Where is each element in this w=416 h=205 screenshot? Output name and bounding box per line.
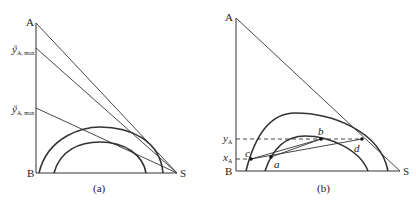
label-yA-max-upper: yoA, max [12, 43, 35, 56]
panel-b-figure [236, 18, 400, 171]
diagram-canvas [0, 0, 416, 205]
point-label-d: d [354, 143, 360, 154]
point-label-b: b [318, 126, 324, 137]
vertex-label-B: B [27, 168, 34, 179]
vertex-label-S: S [403, 166, 409, 177]
caption-a: (a) [93, 182, 105, 194]
vertex-label-A: A [225, 12, 233, 23]
binodal-curve-inner [54, 142, 146, 173]
binodal-curve-outer [246, 113, 388, 171]
label-yA: yA [223, 133, 232, 145]
label-xA: xA [223, 152, 232, 164]
point-b [319, 137, 323, 141]
vertex-label-B: B [225, 166, 232, 177]
caption-b: (b) [317, 182, 330, 194]
label-yA-max-lower: yoA, max [12, 103, 35, 116]
panel-a-figure [36, 23, 177, 173]
vertex-label-A: A [26, 17, 34, 28]
point-a [269, 155, 273, 159]
point-label-c: c [245, 148, 250, 159]
tie-line-cd [251, 139, 362, 159]
tie-line-ab [251, 139, 321, 159]
edge-AS [236, 18, 400, 171]
tangent-line-upper [36, 48, 177, 173]
point-label-a: a [274, 159, 280, 170]
vertex-label-S: S [180, 168, 186, 179]
point-d [360, 137, 364, 141]
